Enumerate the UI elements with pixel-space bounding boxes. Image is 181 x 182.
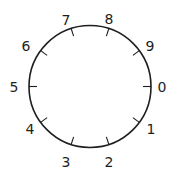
tick-mark-3 [71, 137, 73, 145]
dial-label-1: 1 [147, 121, 156, 137]
dial-circle [29, 26, 151, 148]
dial-label-3: 3 [62, 154, 71, 170]
tick-mark-7 [71, 28, 73, 36]
dial-label-0: 0 [158, 79, 167, 95]
dial-label-7: 7 [62, 12, 71, 28]
dial-ticks [29, 28, 151, 144]
dial-label-8: 8 [105, 11, 114, 27]
tick-mark-2 [106, 137, 108, 145]
dial-label-2: 2 [105, 154, 114, 170]
tick-mark-8 [106, 28, 108, 36]
dial-label-6: 6 [22, 38, 31, 54]
dial-labels: 0123456789 [10, 11, 167, 170]
dial-label-5: 5 [10, 79, 19, 95]
tick-mark-6 [41, 51, 47, 56]
dial-label-4: 4 [26, 121, 35, 137]
dial-label-9: 9 [146, 38, 155, 54]
dial-diagram: 0123456789 [0, 0, 181, 182]
tick-mark-1 [133, 118, 139, 123]
tick-mark-4 [41, 118, 47, 123]
tick-mark-9 [133, 51, 139, 56]
